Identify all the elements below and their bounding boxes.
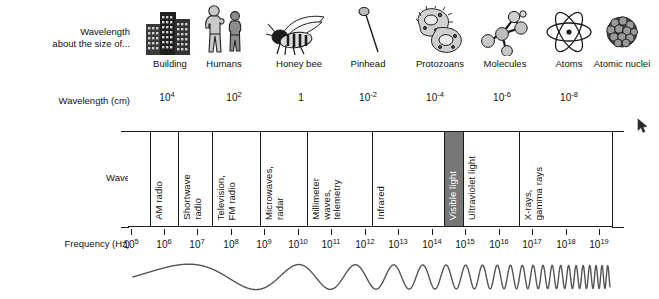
band-divider [150,132,151,226]
size-comparison-cell: Molecules [468,4,542,69]
frequency-tick-label: 1011 [322,239,341,250]
wavelength-tick-label: 10-4 [426,92,444,103]
wave-illustration [0,255,659,299]
wavelength-tick-label: 10-8 [560,92,578,103]
band-divider [444,132,445,226]
spectrum-band: AM radioShortwave radioTelevision, FM ra… [128,131,613,227]
size-comparison-cell: Humans [187,4,261,69]
band-divider [372,132,373,226]
humans-icon [187,4,261,56]
band-label: Infrared [376,186,387,220]
size-comparison-label: Honey bee [262,58,336,69]
band-label: Ultraviolet light [467,156,478,220]
wavelength-tick-label: 1 [298,92,304,103]
size-comparison-cell: Atomic nuclei [585,4,659,69]
protozoans-icon [403,4,477,56]
frequency-tick-label: 1019 [589,239,608,250]
wavelength-tick-label: 10-6 [493,92,511,103]
frequency-tick [298,229,299,235]
pinhead-icon [331,4,405,56]
size-row-label: Wavelength about the size of... [8,26,130,50]
wavelength-row-label: Wavelength (cm) [8,95,130,107]
frequency-tick-label: 1014 [422,239,441,250]
size-comparison-label: Humans [187,58,261,69]
size-comparison-cell: Protozoans [403,4,477,69]
frequency-tick-label: 108 [223,239,238,250]
frequency-tick [197,229,198,235]
wavelength-tick-label: 102 [226,92,241,103]
band-label: Shortwave radio [182,174,203,220]
size-comparison-cell: Pinhead [331,4,405,69]
size-comparison-label: Atomic nuclei [585,58,659,69]
honey-bee-icon [262,4,336,56]
frequency-tick-label: 1018 [556,239,575,250]
mouse-pointer-icon [637,118,649,134]
em-spectrum-figure: Wavelength about the size of... Waveleng… [0,0,659,299]
frequency-row-label: Frequency (Hz) [8,238,130,250]
atomic-nuclei-icon [585,4,659,56]
frequency-tick [164,229,165,235]
frequency-tick-label: 107 [189,239,204,250]
band-label: AM radio [154,181,165,220]
size-comparison-cell: Honey bee [262,4,336,69]
frequency-tick-label: 1017 [522,239,541,250]
band-label: X-rays, gamma rays [523,167,544,220]
frequency-tick [532,229,533,235]
band-divider [463,132,464,226]
frequency-tick [566,229,567,235]
band-top-rule-right [612,131,624,132]
band-label: Millimeter waves, telemetry [311,178,343,220]
band-label: Visible light [448,171,459,220]
frequency-tick [465,229,466,235]
wavelength-tick-label: 10-2 [359,92,377,103]
wave-row-label: Wave [8,172,130,184]
frequency-tick-label: 106 [156,239,171,250]
size-comparison-label: Molecules [468,58,542,69]
band-divider [178,132,179,226]
band-bottom-rule-right [612,227,624,228]
frequency-tick [599,229,600,235]
frequency-tick [398,229,399,235]
band-label: Microwaves, radar [264,166,285,220]
frequency-tick-label: 109 [256,239,271,250]
frequency-tick-label: 1013 [388,239,407,250]
band-divider [212,132,213,226]
band-label: Television, FM radio [216,175,237,220]
frequency-tick [264,229,265,235]
frequency-tick-label: 105 [123,239,138,250]
frequency-tick [331,229,332,235]
frequency-tick-label: 1016 [489,239,508,250]
band-divider [260,132,261,226]
band-bottom-rule-left [121,227,129,228]
frequency-tick [131,229,132,235]
size-comparison-label: Protozoans [403,58,477,69]
wavelength-tick-label: 104 [159,92,174,103]
band-divider [307,132,308,226]
frequency-tick [432,229,433,235]
frequency-tick [231,229,232,235]
frequency-tick-label: 1010 [288,239,307,250]
frequency-tick-label: 1015 [455,239,474,250]
size-comparison-label: Pinhead [331,58,405,69]
molecules-icon [468,4,542,56]
frequency-tick [365,229,366,235]
band-right-edge [612,132,613,226]
frequency-tick [499,229,500,235]
band-divider [519,132,520,226]
frequency-tick-label: 1012 [355,239,374,250]
